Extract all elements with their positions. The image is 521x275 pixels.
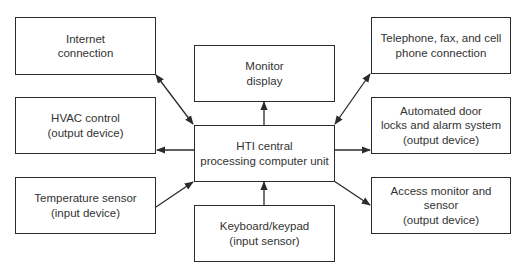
node-label-line: display [245,74,283,89]
node-label-line: HTI central [200,139,328,154]
node-label-line: (output device) [376,213,506,228]
node-label-line: Automated door [381,104,501,119]
node-automated-door-locks: Automated door locks and alarm system (o… [371,97,511,154]
node-label-line: (output device) [381,133,501,148]
node-access-monitor-sensor: Access monitor and sensor (output device… [371,177,511,234]
arrow-center-access [334,181,370,205]
node-label-line: locks and alarm system [381,118,501,133]
node-hvac-control: HVAC control (output device) [15,97,156,154]
arrow-temperature-center [156,182,193,207]
node-label-line: (input device) [34,206,136,221]
node-hti-central-processing-unit: HTI central processing computer unit [194,125,335,182]
node-label-line: Keyboard/keypad [220,219,310,234]
node-label-line: phone connection [381,46,502,61]
node-keyboard-keypad: Keyboard/keypad (input sensor) [194,205,335,262]
node-label-line: Internet [58,32,114,47]
node-label-line: Telephone, fax, and cell [381,31,502,46]
node-label-line: Monitor [245,59,283,74]
node-label-line: processing computer unit [200,154,328,169]
node-monitor-display: Monitor display [194,45,335,102]
node-internet-connection: Internet connection [15,17,156,75]
node-label-line: HVAC control [47,111,123,126]
node-label-line: (output device) [47,126,123,141]
node-label-line: Access monitor and sensor [376,184,506,213]
node-label-line: Temperature sensor [34,191,136,206]
diagram-canvas: Internet connection HVAC control (output… [0,0,521,275]
node-temperature-sensor: Temperature sensor (input device) [15,177,156,234]
arrow-telephone-center [335,74,370,124]
node-label-line: (input sensor) [220,234,310,249]
node-telephone-fax-cell: Telephone, fax, and cell phone connectio… [371,17,511,74]
arrow-internet-center [156,75,193,124]
node-label-line: connection [58,46,114,61]
